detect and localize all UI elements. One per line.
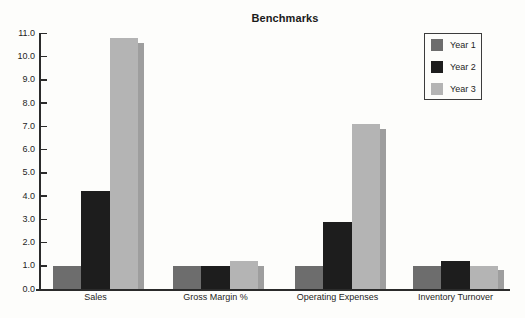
legend: Year 1Year 2Year 3 — [424, 33, 482, 100]
y-tick-label: 11.0 — [9, 28, 35, 39]
bar — [295, 266, 323, 289]
bar — [81, 191, 109, 289]
bar — [323, 222, 351, 289]
bar — [53, 266, 81, 289]
bar-shadow — [380, 129, 386, 289]
bar-shadow — [498, 270, 504, 289]
y-tick — [39, 149, 47, 151]
legend-swatch-year-2 — [431, 61, 443, 73]
legend-swatch-year-1 — [431, 39, 443, 51]
y-tick — [39, 126, 47, 128]
benchmarks-bar-chart: Benchmarks 0.01.02.03.04.05.06.07.08.09.… — [0, 0, 525, 318]
legend-item: Year 3 — [431, 83, 481, 95]
y-tick-label: 2.0 — [9, 237, 35, 248]
x-category-label: Inventory Turnover — [396, 292, 516, 303]
legend-swatch-year-3 — [431, 83, 443, 95]
y-tick — [39, 219, 47, 221]
y-tick-label: 3.0 — [9, 214, 35, 225]
y-tick-label: 8.0 — [9, 98, 35, 109]
bar — [470, 266, 498, 289]
y-tick — [39, 102, 47, 104]
y-tick — [39, 195, 47, 197]
y-tick — [39, 242, 47, 244]
y-tick-label: 9.0 — [9, 74, 35, 85]
legend-item: Year 2 — [431, 61, 481, 73]
x-category-label: Operating Expenses — [278, 292, 398, 303]
y-axis-line — [39, 33, 41, 289]
chart-title: Benchmarks — [50, 12, 520, 24]
bar-shadow — [258, 266, 264, 289]
x-category-label: Sales — [36, 292, 156, 303]
legend-item: Year 1 — [431, 39, 481, 51]
y-tick-label: 4.0 — [9, 191, 35, 202]
y-tick-label: 1.0 — [9, 260, 35, 271]
y-tick — [39, 33, 47, 35]
y-tick-label: 7.0 — [9, 121, 35, 132]
y-tick-label: 0.0 — [9, 284, 35, 295]
legend-label: Year 1 — [450, 39, 476, 51]
y-tick — [39, 79, 47, 81]
bar — [441, 261, 469, 289]
bar — [230, 261, 258, 289]
y-tick-label: 5.0 — [9, 167, 35, 178]
bar-shadow — [138, 43, 144, 289]
y-tick — [39, 172, 47, 174]
y-tick-label: 10.0 — [9, 51, 35, 62]
bar — [110, 38, 138, 289]
bar — [201, 266, 229, 289]
bar — [352, 124, 380, 289]
y-tick-label: 6.0 — [9, 144, 35, 155]
y-tick — [39, 265, 47, 267]
legend-label: Year 3 — [450, 83, 476, 95]
y-tick — [39, 56, 47, 58]
bar — [173, 266, 201, 289]
x-axis-line — [36, 289, 510, 291]
x-category-label: Gross Margin % — [156, 292, 276, 303]
bar — [413, 266, 441, 289]
legend-label: Year 2 — [450, 61, 476, 73]
